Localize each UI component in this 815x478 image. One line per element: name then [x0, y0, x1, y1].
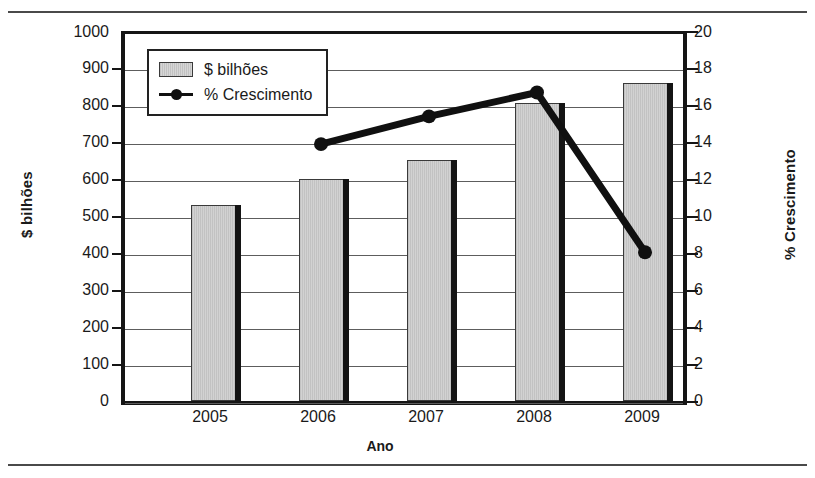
- y-axis-title: $ bilhões: [18, 135, 35, 275]
- y2-tick-label-10: 10: [694, 208, 744, 224]
- y-tick-label-600: 600: [47, 171, 109, 187]
- y2-tick-label-4: 4: [694, 319, 744, 335]
- page-rule-top: [8, 11, 807, 13]
- y2-tick-label-8: 8: [694, 245, 744, 261]
- y-tick-label-900: 900: [47, 60, 109, 76]
- chart-figure: $ bilhões % Crescimento Ano 1000 900 800…: [0, 0, 815, 478]
- y2-tickmark: [687, 68, 698, 70]
- y-tick-label-1000: 1000: [47, 24, 109, 40]
- legend-label-crescimento: % Crescimento: [204, 86, 312, 104]
- bar-swatch-icon: [159, 62, 193, 77]
- y2-tick-label-20: 20: [694, 24, 744, 40]
- x-tick-label-2007: 2007: [371, 408, 481, 426]
- line-marker-icon: [159, 87, 193, 102]
- y-tick-label-100: 100: [47, 356, 109, 372]
- y2-tick-label-0: 0: [694, 393, 744, 409]
- y2-tickmark: [687, 142, 698, 144]
- x-axis-title: Ano: [0, 438, 760, 454]
- y2-tick-label-2: 2: [694, 356, 744, 372]
- y-tick-label-500: 500: [47, 208, 109, 224]
- x-tick-label-2009: 2009: [587, 408, 697, 426]
- y2-axis-title: % Crescimento: [781, 125, 798, 285]
- chart-legend: $ bilhões % Crescimento: [147, 49, 328, 116]
- y2-tick-label-6: 6: [694, 282, 744, 298]
- y-tick-label-200: 200: [47, 319, 109, 335]
- x-tick-label-2006: 2006: [263, 408, 373, 426]
- y-tick-label-800: 800: [47, 97, 109, 113]
- growth-line-path: [321, 93, 645, 253]
- y-tick-label-300: 300: [47, 282, 109, 298]
- y2-tickmark: [687, 179, 698, 181]
- y2-tick-label-12: 12: [694, 171, 744, 187]
- growth-point-2006: [314, 137, 328, 151]
- y2-tick-label-14: 14: [694, 134, 744, 150]
- x-tick-label-2008: 2008: [479, 408, 589, 426]
- y2-tickmark: [687, 31, 698, 33]
- y-tick-label-700: 700: [47, 134, 109, 150]
- page-rule-bottom: [8, 464, 807, 466]
- plot-area: $ bilhões % Crescimento: [121, 31, 687, 405]
- legend-label-bilhoes: $ bilhões: [204, 61, 268, 79]
- growth-point-2007: [422, 109, 436, 123]
- y2-tickmark: [687, 401, 698, 403]
- gridline: [125, 403, 683, 404]
- y2-tickmark: [687, 364, 698, 366]
- legend-item-bilhoes: $ bilhões: [159, 57, 312, 82]
- y2-tickmark: [687, 290, 698, 292]
- y2-tick-label-18: 18: [694, 60, 744, 76]
- legend-item-crescimento: % Crescimento: [159, 82, 312, 107]
- y2-tickmark: [687, 216, 698, 218]
- growth-point-2009: [638, 245, 652, 259]
- y-tick-label-0: 0: [47, 393, 109, 409]
- y2-tick-label-16: 16: [694, 97, 744, 113]
- y2-tickmark: [687, 327, 698, 329]
- y2-tickmark: [687, 253, 698, 255]
- x-tick-label-2005: 2005: [155, 408, 265, 426]
- y2-tickmark: [687, 105, 698, 107]
- y-tick-label-400: 400: [47, 245, 109, 261]
- growth-point-2008: [530, 86, 544, 100]
